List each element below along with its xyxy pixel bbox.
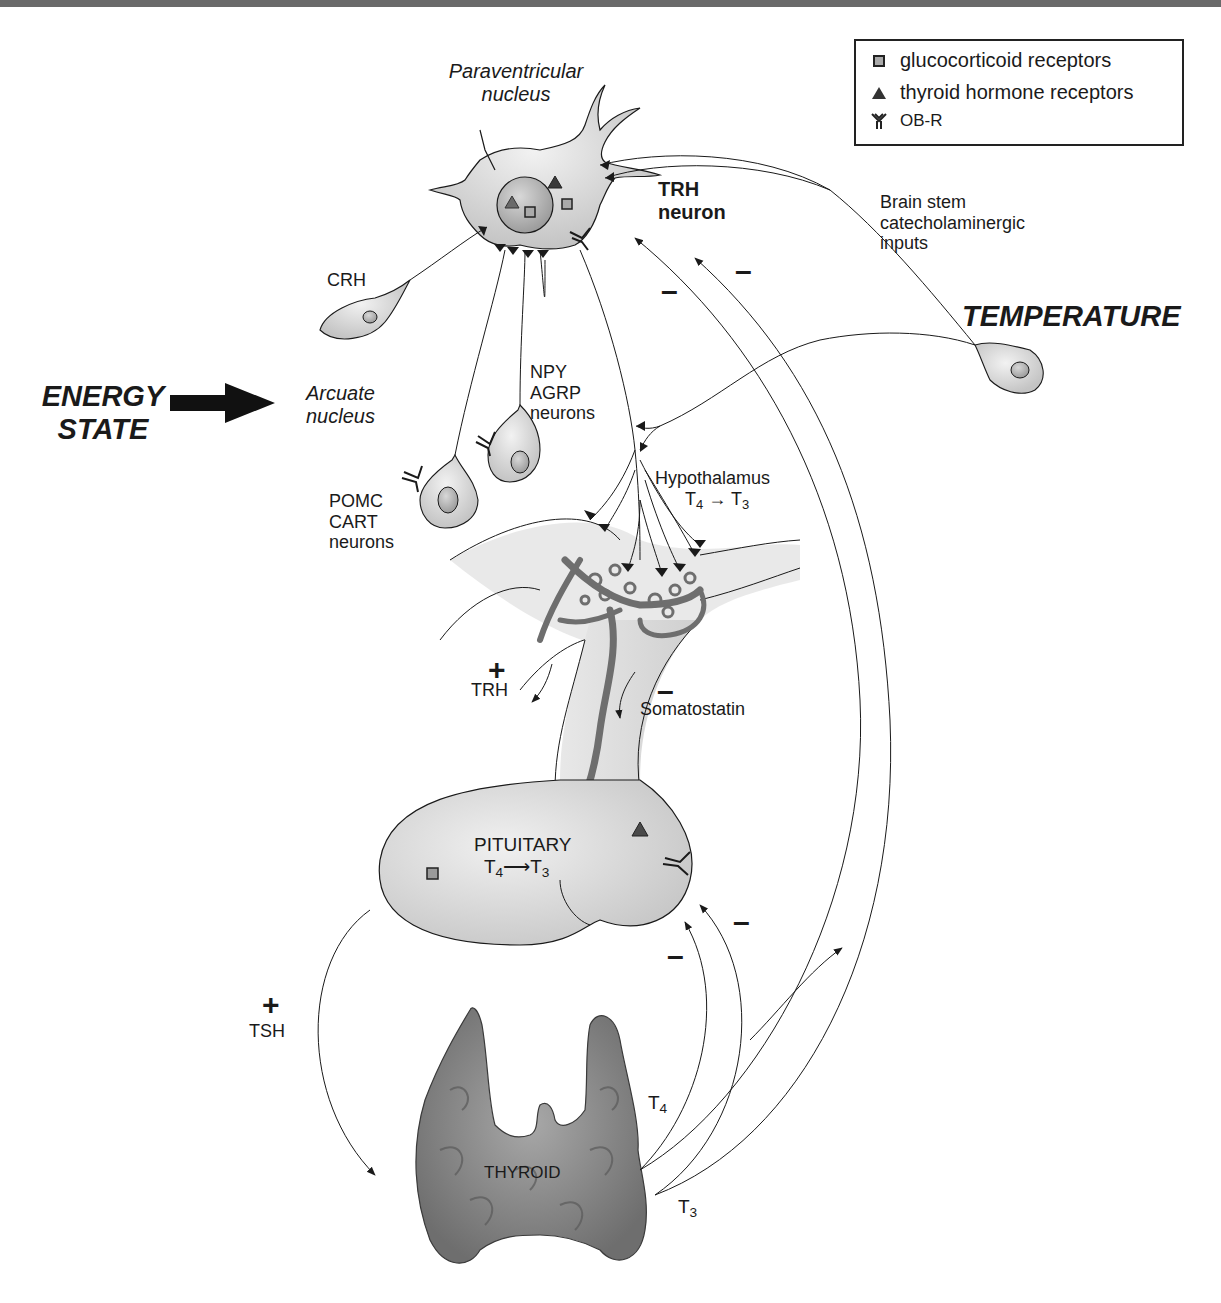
thyroid-gland (416, 1008, 646, 1263)
trh-arrow (532, 664, 552, 702)
tsh-label: TSH (249, 1021, 285, 1042)
trh-label: TRH (471, 680, 508, 701)
trh-neuron-label: TRH neuron (658, 178, 726, 224)
minus-sign-hypothalamus-2: – (735, 256, 752, 286)
square-icon (868, 55, 890, 67)
pomc-cart-label: POMC CART neurons (329, 491, 394, 553)
crh-label: CRH (327, 270, 366, 291)
minus-sign-pituitary-1: – (667, 941, 684, 971)
energy-state-label: ENERGY STATE (36, 380, 170, 447)
minus-sign-hypothalamus-1: – (661, 276, 678, 306)
trh-neuron (430, 85, 660, 250)
legend-item-glucocorticoid: glucocorticoid receptors (868, 49, 1111, 72)
glucocorticoid-receptor-icon (562, 199, 572, 209)
temperature-label: TEMPERATURE (962, 300, 1181, 333)
t4-label: T4 (648, 1092, 667, 1117)
pituitary-conversion: T4⟶T3 (474, 856, 571, 881)
legend-item-thyroid: thyroid hormone receptors (868, 81, 1133, 104)
hypothalamus-conversion: T4 → T3 (655, 489, 770, 513)
npy-agrp-label: NPY AGRP neurons (530, 362, 595, 424)
glucocorticoid-receptor-icon (525, 207, 535, 217)
minus-sign-pituitary-2: – (733, 907, 750, 937)
trh-neuron-nucleus (497, 177, 553, 233)
tsh-arrow (318, 910, 375, 1175)
legend: glucocorticoid receptors thyroid hormone… (854, 39, 1184, 146)
pomc-cart-neuron (402, 250, 505, 528)
pituitary-label: PITUITARY T4⟶T3 (474, 834, 571, 880)
tsh-plus-sign: + (262, 990, 280, 1020)
t3-label: T3 (678, 1196, 697, 1221)
receptor-y-icon (868, 112, 890, 130)
triangle-icon (868, 86, 890, 100)
arcuate-label: Arcuate nucleus (306, 382, 375, 428)
paraventricular-label: Paraventricular nucleus (426, 60, 606, 106)
thyroid-label: THYROID (484, 1163, 561, 1183)
somatostatin-label: Somatostatin (640, 699, 745, 720)
ob-r-receptor-icon (402, 466, 422, 492)
diagram-artwork (0, 0, 1221, 1303)
brain-stem-label: Brain stem catecholaminergic inputs (880, 192, 1025, 254)
glucocorticoid-receptor-icon (427, 868, 438, 879)
energy-state-arrow (170, 383, 275, 423)
legend-item-ob-r: OB-R (868, 111, 943, 131)
hypothalamus-label: Hypothalamus T4 → T3 (655, 468, 770, 512)
